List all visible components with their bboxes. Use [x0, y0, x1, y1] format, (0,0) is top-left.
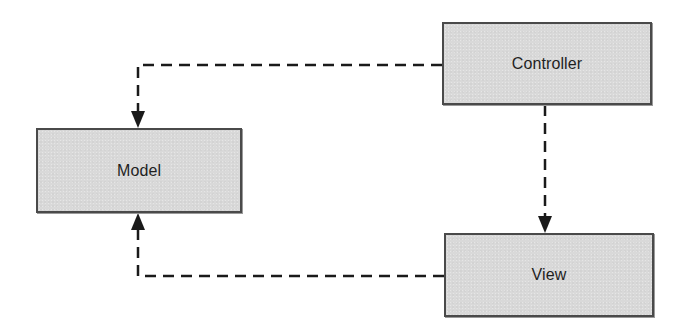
arrowhead-up-icon	[131, 213, 145, 230]
mvc-diagram: Controller Model View	[0, 0, 685, 334]
node-controller: Controller	[442, 22, 652, 105]
node-model: Model	[36, 128, 242, 213]
edge-controller-to-model	[131, 65, 442, 128]
node-label-view: View	[532, 266, 567, 284]
node-view: View	[444, 233, 654, 317]
node-label-controller: Controller	[512, 55, 582, 73]
node-label-model: Model	[117, 162, 161, 180]
edge-controller-to-view	[538, 105, 552, 233]
arrowhead-down-icon	[131, 111, 145, 128]
arrowhead-down-icon	[538, 216, 552, 233]
edge-view-to-model	[131, 213, 444, 276]
